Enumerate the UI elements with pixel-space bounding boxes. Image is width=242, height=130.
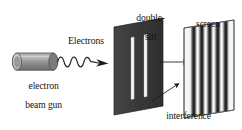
gun-muzzle [49, 53, 58, 70]
electron-beam-gun [12, 53, 57, 70]
label-electron-beam-gun-line1: electron [29, 80, 59, 91]
label-interference-pattern: interference pattern [144, 101, 224, 130]
physics-diagram-double-slit-experiment: electron beam gun Electrons double- slit… [0, 0, 242, 130]
label-electrons: Electrons [58, 36, 114, 46]
label-interference-pattern-line1: interference [166, 110, 211, 121]
label-electron-beam-gun: electron beam gun [2, 71, 76, 120]
gun-aperture [15, 57, 19, 66]
wave-path [58, 57, 100, 67]
label-screen: screen [196, 19, 240, 29]
label-double-slit-line1: double- [136, 12, 165, 23]
label-electron-beam-gun-line2: beam gun [25, 99, 62, 110]
label-double-slit-line2: slit [145, 31, 156, 42]
label-interference-pattern-line2: pattern [176, 129, 202, 130]
electron-wave-arrow [58, 57, 109, 67]
label-double-slit: double- slit [122, 3, 170, 52]
